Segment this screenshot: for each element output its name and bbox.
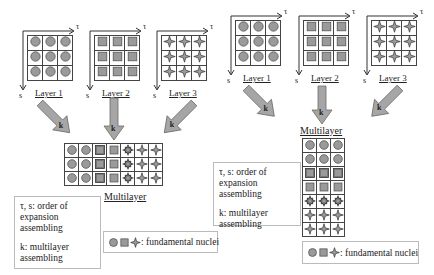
grid-cell	[28, 36, 42, 50]
grid-cell	[304, 21, 318, 35]
grid-cell	[334, 36, 348, 50]
star-nucleus-icon	[318, 221, 330, 239]
layer-grid	[27, 35, 73, 81]
legend-text: assembling	[219, 219, 295, 230]
grid-cell	[107, 172, 120, 185]
circle-nucleus-icon	[29, 64, 42, 82]
grid-cell	[110, 66, 124, 80]
layer-grid	[371, 20, 417, 66]
k-assembly-arrow: k	[114, 98, 134, 144]
s-axis-label: s	[19, 91, 22, 100]
square-nucleus-icon	[111, 64, 124, 82]
legend-text: expansion assembling	[20, 212, 95, 234]
star-nucleus-icon	[304, 221, 316, 239]
circle-nucleus-icon	[44, 64, 57, 82]
grid-cell	[162, 36, 176, 50]
s-axis-label: s	[86, 91, 89, 100]
grid-cell	[387, 51, 401, 65]
circle-nucleus-icon	[237, 49, 250, 67]
star-nucleus-icon	[388, 49, 401, 67]
multilayer-grid	[64, 143, 163, 186]
grid-cell	[177, 66, 191, 80]
legend-box: τ, s: order ofexpansion assemblingk: mul…	[213, 162, 301, 226]
star-nucleus-icon	[150, 170, 162, 188]
grid-cell	[317, 223, 330, 236]
layer-grid	[303, 20, 349, 66]
grid-cell	[402, 51, 416, 65]
nuclei-legend-text: : fundamental nuclei	[340, 248, 418, 258]
legend-text: expansion assembling	[219, 178, 295, 200]
grid-cell	[236, 51, 250, 65]
tau-axis-label: τ	[143, 22, 146, 31]
fundamental-nuclei-legend: : fundamental nuclei	[103, 231, 218, 253]
legend-text: k: multilayer	[219, 208, 295, 219]
grid-cell	[65, 172, 78, 185]
circle-nucleus-icon	[307, 247, 318, 258]
circle-nucleus-icon	[267, 49, 280, 67]
grid-cell	[319, 51, 333, 65]
s-axis-label: s	[363, 76, 366, 85]
grid-cell	[192, 36, 206, 50]
layer-grid	[161, 35, 207, 81]
grid-cell	[334, 51, 348, 65]
grid-cell	[95, 36, 109, 50]
grid-cell	[95, 51, 109, 65]
k-assembly-arrow: k	[322, 86, 342, 128]
grid-cell	[303, 223, 316, 236]
grid-cell	[95, 66, 109, 80]
square-nucleus-icon	[318, 247, 329, 258]
grid-cell	[125, 66, 139, 80]
k-label: k	[319, 108, 323, 117]
grid-cell	[236, 21, 250, 35]
grid-cell	[319, 36, 333, 50]
star-nucleus-icon	[163, 64, 176, 82]
grid-cell	[372, 51, 386, 65]
grid-cell	[236, 36, 250, 50]
grid-cell	[93, 172, 106, 185]
square-nucleus-icon	[305, 49, 318, 67]
framed-square-nucleus-icon	[94, 170, 106, 188]
framed-star-nucleus-icon	[122, 170, 134, 188]
k-label: k	[111, 124, 115, 133]
grid-cell	[251, 51, 265, 65]
s-axis-label: s	[153, 91, 156, 100]
legend-text: τ, s: order of	[219, 167, 295, 178]
circle-nucleus-icon	[80, 170, 92, 188]
grid-cell	[28, 66, 42, 80]
layer-label: Layer 2	[311, 73, 339, 83]
k-label: k	[263, 104, 267, 113]
grid-cell	[177, 36, 191, 50]
grid-cell	[110, 36, 124, 50]
legend-box: τ, s: order ofexpansion assemblingk: mul…	[14, 196, 101, 269]
legend-text: assembling	[20, 253, 95, 264]
grid-cell	[58, 51, 72, 65]
legend-text: k: multilayer	[20, 242, 95, 253]
layer-grid	[235, 20, 281, 66]
multilayer-grid	[302, 138, 345, 237]
grid-cell	[43, 36, 57, 50]
grid-cell	[251, 21, 265, 35]
tau-axis-label: τ	[420, 7, 423, 16]
grid-cell	[79, 172, 92, 185]
grid-cell	[121, 172, 134, 185]
grid-cell	[125, 51, 139, 65]
grid-cell	[58, 36, 72, 50]
layer-grid	[94, 35, 140, 81]
tau-axis-label: τ	[210, 22, 213, 31]
grid-cell	[402, 36, 416, 50]
square-nucleus-icon	[96, 64, 109, 82]
layer-label: Layer 3	[379, 73, 407, 83]
star-nucleus-icon	[332, 221, 344, 239]
circle-nucleus-icon	[59, 64, 72, 82]
grid-cell	[125, 36, 139, 50]
nuclei-legend-text: : fundamental nuclei	[141, 237, 219, 247]
star-nucleus-icon	[403, 49, 416, 67]
grid-cell	[266, 36, 280, 50]
k-label: k	[377, 103, 381, 112]
grid-cell	[372, 21, 386, 35]
star-nucleus-icon	[373, 49, 386, 67]
grid-cell	[266, 21, 280, 35]
grid-cell	[192, 51, 206, 65]
tau-axis-label: τ	[76, 22, 79, 31]
k-label: k	[170, 120, 174, 129]
